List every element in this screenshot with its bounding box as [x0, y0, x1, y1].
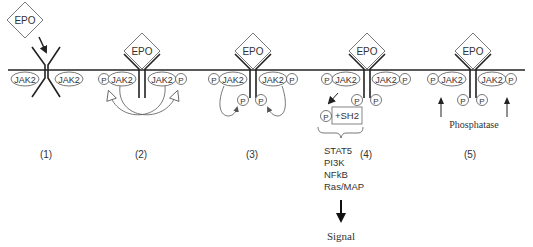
- jak2-right: JAK2: [148, 72, 176, 86]
- stage-label: (5): [464, 149, 476, 160]
- phospho-receptor-left: P: [352, 95, 363, 106]
- svg-text:JAK2: JAK2: [58, 75, 80, 85]
- svg-text:P: P: [508, 76, 513, 85]
- svg-text:P: P: [402, 76, 407, 85]
- brace: [318, 127, 363, 138]
- pathway-nfkb: NFkB: [324, 169, 348, 180]
- phosphatase-label: Phosphatase: [449, 119, 499, 130]
- binding-arrow: [39, 37, 46, 52]
- svg-text:JAK2: JAK2: [111, 75, 133, 85]
- jak2-left: JAK2: [332, 72, 360, 86]
- stage-label: (1): [40, 149, 52, 160]
- svg-text:JAK2: JAK2: [335, 75, 357, 85]
- phospho-right: P: [176, 74, 187, 85]
- svg-text:JAK2: JAK2: [222, 75, 244, 85]
- phospho-jak2-left: P: [428, 74, 439, 85]
- phospho-jak2-right: P: [506, 74, 517, 85]
- epo-ligand: EPO: [7, 2, 43, 38]
- stage-5: EPO P JAK2 JAK2 P P P: [428, 33, 517, 160]
- svg-text:P: P: [178, 76, 183, 85]
- epo-ligand: EPO: [235, 33, 271, 69]
- stage-1: EPO JAK2 JAK2 (1): [7, 2, 83, 160]
- phospho-jak2-left: P: [209, 74, 220, 85]
- svg-text:P: P: [430, 76, 435, 85]
- signal-label: Signal: [327, 230, 355, 242]
- jak2-right: JAK2: [478, 72, 506, 86]
- svg-text:P: P: [354, 97, 359, 106]
- pathway-ras-map: Ras/MAP: [324, 181, 364, 192]
- phospho-jak2-right: P: [287, 74, 298, 85]
- jak2-right: JAK2: [55, 72, 83, 86]
- signal-arrow: [336, 200, 346, 223]
- svg-text:JAK2: JAK2: [375, 75, 397, 85]
- svg-text:EPO: EPO: [462, 46, 483, 57]
- epo-ligand: EPO: [124, 33, 160, 69]
- svg-text:JAK2: JAK2: [151, 75, 173, 85]
- phospho-receptor-left: P: [458, 95, 469, 106]
- svg-text:JAK2: JAK2: [441, 75, 463, 85]
- phosphorylation-arrow-left: [220, 86, 237, 116]
- svg-text:P: P: [101, 76, 106, 85]
- stage-3: EPO P JAK2 JAK2 P P P: [209, 33, 298, 160]
- svg-text:P: P: [323, 113, 328, 122]
- svg-text:EPO: EPO: [14, 15, 35, 26]
- receptor-unbound: [32, 47, 60, 97]
- phospho-receptor-right: P: [256, 95, 267, 106]
- phospho-receptor-right: P: [477, 95, 488, 106]
- svg-text:P: P: [289, 76, 294, 85]
- phospho-receptor-left: P: [238, 95, 249, 106]
- pathway-list: STAT5 PI3K NFkB Ras/MAP: [324, 145, 364, 192]
- phosphorylation-arrow-right: [268, 86, 285, 116]
- jak2-left: JAK2: [438, 72, 466, 86]
- svg-text:EPO: EPO: [131, 46, 152, 57]
- svg-text:+SH2: +SH2: [335, 110, 359, 121]
- phospho-receptor-right: P: [371, 95, 382, 106]
- jak2-right: JAK2: [259, 72, 287, 86]
- svg-text:P: P: [460, 97, 465, 106]
- docking-arrow: [329, 93, 338, 103]
- stage-2: EPO P JAK2 JAK2 P (2): [99, 33, 187, 160]
- phospho-jak2-left: P: [322, 74, 333, 85]
- pathway-stat5: STAT5: [324, 145, 352, 156]
- pathway-pi3k: PI3K: [324, 157, 345, 168]
- svg-text:P: P: [258, 97, 263, 106]
- jak2-left: JAK2: [108, 72, 136, 86]
- svg-text:JAK2: JAK2: [481, 75, 503, 85]
- svg-text:P: P: [240, 97, 245, 106]
- sh2-protein: P +SH2: [321, 107, 363, 124]
- svg-text:EPO: EPO: [242, 46, 263, 57]
- svg-text:JAK2: JAK2: [14, 75, 36, 85]
- svg-text:P: P: [324, 76, 329, 85]
- stage-label: (4): [360, 149, 372, 160]
- stage-4: EPO P JAK2 JAK2 P P P: [318, 33, 411, 242]
- phosphatase-arrow-right: [504, 97, 510, 117]
- svg-text:EPO: EPO: [356, 46, 377, 57]
- epo-jak2-signaling-diagram: EPO JAK2 JAK2 (1) EPO P: [0, 0, 533, 247]
- svg-text:JAK2: JAK2: [262, 75, 284, 85]
- svg-text:P: P: [479, 97, 484, 106]
- stage-label: (3): [246, 149, 258, 160]
- epo-ligand: EPO: [349, 33, 385, 69]
- trans-phosphorylation-arrow-right: [120, 86, 176, 115]
- svg-text:P: P: [211, 76, 216, 85]
- phosphatase-arrow-left: [438, 97, 444, 117]
- jak2-left: JAK2: [219, 72, 247, 86]
- trans-phosphorylation-arrow-left: [110, 86, 165, 115]
- epo-ligand: EPO: [455, 33, 491, 69]
- jak2-left: JAK2: [11, 72, 39, 86]
- stage-label: (2): [135, 149, 147, 160]
- jak2-right: JAK2: [372, 72, 400, 86]
- phospho-jak2-right: P: [400, 74, 411, 85]
- svg-text:P: P: [373, 97, 378, 106]
